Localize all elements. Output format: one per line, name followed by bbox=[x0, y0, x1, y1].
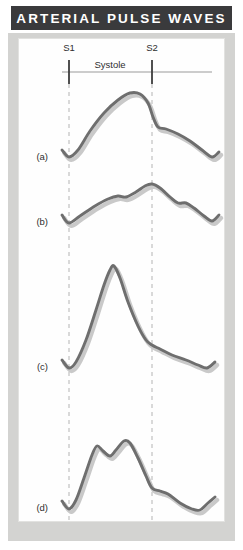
wave-shadow-a bbox=[64, 95, 221, 160]
s1-label: S1 bbox=[63, 42, 75, 53]
arterial-pulse-waves-figure: ARTERIAL PULSE WAVES S1 S2 Systole (a) (… bbox=[0, 0, 243, 550]
wave-shadow-c bbox=[64, 269, 217, 371]
systole-label: Systole bbox=[94, 59, 125, 70]
s2-label: S2 bbox=[146, 42, 158, 53]
wave-trace-d bbox=[62, 440, 215, 510]
trace-label-a: (a) bbox=[36, 151, 48, 162]
wave-traces bbox=[62, 92, 221, 513]
trace-label-d: (d) bbox=[36, 502, 48, 513]
pulse-wave-plot: S1 S2 Systole (a) (b) (c) (d) bbox=[0, 0, 243, 550]
wave-shadow-b bbox=[64, 187, 221, 226]
wave-shadow-d bbox=[64, 443, 217, 513]
trace-label-b: (b) bbox=[36, 216, 48, 227]
trace-label-c: (c) bbox=[37, 361, 48, 372]
